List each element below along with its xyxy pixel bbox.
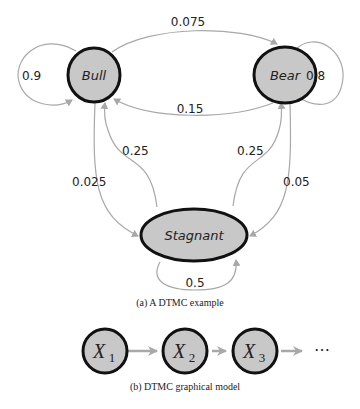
node-x2: X 2	[163, 329, 207, 373]
svg-text:X: X	[172, 340, 186, 362]
svg-text:Bear: Bear	[270, 68, 302, 83]
label-bear-bear: 0.8	[306, 69, 325, 83]
caption-a: (a) A DTMC example	[136, 297, 224, 309]
caption-b: (b) DTMC graphical model	[130, 381, 240, 393]
label-bull-stagnant: 0.025	[72, 175, 106, 189]
node-x1: X 1	[83, 329, 127, 373]
label-stagnant-stagnant: 0.5	[185, 276, 204, 290]
svg-text:3: 3	[259, 350, 266, 365]
edge-bull-stagnant	[94, 103, 138, 236]
node-stagnant: Stagnant	[141, 209, 247, 261]
edge-bear-stagnant	[250, 103, 291, 236]
label-bear-stagnant: 0.05	[283, 175, 310, 189]
graphical-model: X 1 X 2 X 3 ⋯	[83, 329, 330, 373]
edge-bull-bear	[112, 31, 277, 52]
ellipsis: ⋯	[314, 341, 330, 358]
label-bear-bull: 0.15	[177, 102, 204, 116]
svg-text:Stagnant: Stagnant	[164, 228, 224, 243]
dtmc-figure: Bull Bear Stagnant 0.9 0.075 0.025 0.8 0…	[0, 0, 360, 409]
svg-text:X: X	[242, 340, 256, 362]
node-bull: Bull	[68, 48, 120, 102]
label-stagnant-bull: 0.25	[122, 144, 149, 158]
label-stagnant-bear: 0.25	[237, 144, 264, 158]
label-bull-bull: 0.9	[22, 69, 41, 83]
svg-text:2: 2	[189, 350, 196, 365]
svg-text:1: 1	[109, 350, 116, 365]
label-bull-bear: 0.075	[171, 15, 205, 29]
node-x3: X 3	[233, 329, 277, 373]
svg-text:X: X	[92, 340, 106, 362]
svg-text:Bull: Bull	[82, 68, 107, 83]
